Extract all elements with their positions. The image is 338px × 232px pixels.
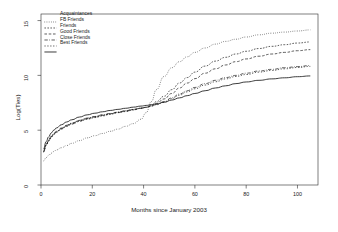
y-tick-label: 15 [23,21,29,27]
y-axis-title: Log(Ties) [14,58,21,158]
legend-item: Best Friends [44,40,118,46]
series-line [44,30,311,161]
x-tick-label: 60 [192,191,198,197]
x-axis-title: Months since January 2003 [0,206,338,213]
y-tick-label: 5 [23,130,29,133]
series-line [44,76,311,149]
series-line [44,50,311,152]
legend-label: Best Friends [60,40,87,46]
chart-legend: AcquaintancesFB FriendsFriendsGood Frien… [44,11,118,46]
legend-line-swatch [44,40,57,46]
x-tick-label: 100 [293,191,302,197]
y-tick-label: 10 [23,75,29,81]
x-tick-label: 20 [89,191,95,197]
x-tick-label: 80 [243,191,249,197]
data-lines [44,30,311,161]
x-tick-label: 40 [141,191,147,197]
chart-figure: Months since January 2003 Log(Ties) 0204… [0,0,338,232]
series-line [44,42,311,152]
series-line [44,66,311,152]
y-tick-label: 0 [23,185,29,188]
x-tick-label: 0 [40,191,43,197]
